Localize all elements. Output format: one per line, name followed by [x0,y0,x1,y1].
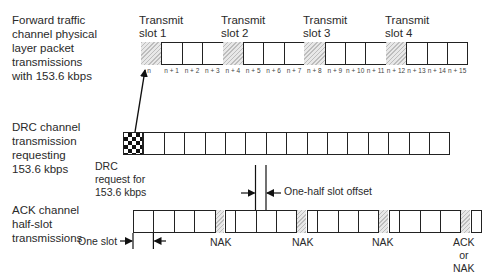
diagram-arrows [0,0,486,276]
drc-to-slot-arrow [135,70,145,132]
